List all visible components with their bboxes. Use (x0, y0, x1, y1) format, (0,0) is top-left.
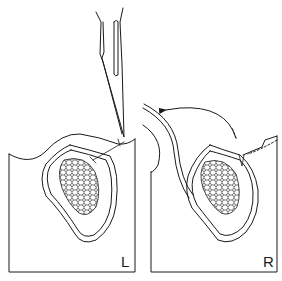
panel-label-left: L (121, 254, 129, 269)
left-panel (9, 134, 135, 272)
arrow-icon (166, 108, 236, 138)
surgical-diagram: L R (0, 0, 282, 281)
diagram-svg (0, 0, 282, 281)
scalpel-icon (96, 8, 124, 137)
panel-label-right: R (263, 254, 274, 269)
right-panel (151, 136, 277, 272)
